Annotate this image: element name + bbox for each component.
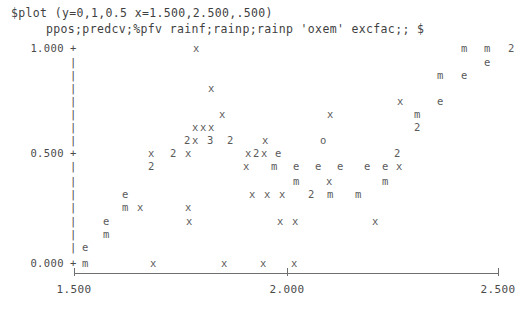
data-point-glyph: m bbox=[461, 42, 468, 54]
data-point-glyph: 2 bbox=[394, 147, 401, 159]
data-point-glyph: e bbox=[275, 147, 282, 159]
plot-command-line-1: $plot (y=0,1,0.5 x=1.500,2.500,.500) bbox=[11, 6, 273, 20]
y-axis-glyph: | bbox=[70, 134, 77, 146]
data-point-glyph: m bbox=[414, 108, 421, 120]
data-point-glyph: e bbox=[82, 241, 89, 253]
data-point-glyph: x bbox=[192, 121, 199, 133]
data-point-glyph: e bbox=[484, 56, 491, 68]
data-point-glyph: m bbox=[327, 188, 334, 200]
x-axis-tick-mark bbox=[287, 268, 288, 276]
data-point-glyph: x bbox=[260, 257, 267, 269]
data-point-glyph: 2 bbox=[308, 188, 315, 200]
scatter-plot-canvas: 1.0000.5000.000 +|||||||+|||||||+ xmm2em… bbox=[0, 38, 531, 288]
y-axis-glyph: | bbox=[70, 121, 77, 133]
data-point-glyph: x bbox=[150, 257, 157, 269]
data-point-glyph: x bbox=[243, 160, 250, 172]
data-point-glyph: x bbox=[396, 160, 403, 172]
data-point-glyph: x bbox=[137, 201, 144, 213]
data-point-glyph: 2 bbox=[227, 134, 234, 146]
data-point-glyph: x bbox=[221, 257, 228, 269]
x-axis-line bbox=[74, 273, 498, 274]
y-axis-glyph: | bbox=[70, 201, 77, 213]
data-point-glyph: e bbox=[337, 160, 344, 172]
data-point-glyph: x bbox=[264, 188, 271, 200]
data-point-glyph: x bbox=[397, 95, 404, 107]
data-point-glyph: m bbox=[293, 175, 300, 187]
data-point-glyph: x bbox=[185, 201, 192, 213]
ascii-plot-screen: $plot (y=0,1,0.5 x=1.500,2.500,.500) ppo… bbox=[0, 0, 531, 309]
data-point-glyph: x bbox=[186, 215, 193, 227]
data-point-glyph: m bbox=[382, 175, 389, 187]
data-point-glyph: x bbox=[277, 215, 284, 227]
data-point-glyph: 2 bbox=[148, 160, 155, 172]
y-axis-glyph: | bbox=[70, 215, 77, 227]
x-axis-tick-label: 2.000 bbox=[269, 283, 304, 296]
data-point-glyph: x bbox=[208, 82, 215, 94]
y-axis-glyph: | bbox=[70, 160, 77, 172]
data-point-glyph: m bbox=[355, 188, 362, 200]
x-axis-tick-mark bbox=[74, 268, 75, 276]
y-axis-tick-label: 1.000 bbox=[20, 42, 64, 54]
y-axis-glyph: | bbox=[70, 56, 77, 68]
data-point-glyph: m bbox=[82, 257, 89, 269]
y-axis-glyph: | bbox=[70, 188, 77, 200]
y-axis-glyph: | bbox=[70, 95, 77, 107]
plot-command-line-2: ppos;predcv;%pfv rainf;rainp;rainp 'oxem… bbox=[46, 22, 424, 36]
data-point-glyph: e bbox=[103, 215, 110, 227]
data-point-glyph: x bbox=[185, 147, 192, 159]
data-point-glyph: e bbox=[364, 160, 371, 172]
data-point-glyph: o bbox=[320, 134, 327, 146]
data-point-glyph: 2 bbox=[253, 147, 260, 159]
data-point-glyph: e bbox=[315, 160, 322, 172]
data-point-glyph: x bbox=[327, 108, 334, 120]
data-point-glyph: e bbox=[293, 160, 300, 172]
data-point-glyph: x bbox=[261, 147, 268, 159]
data-point-glyph: x bbox=[326, 175, 333, 187]
data-point-glyph: m bbox=[103, 228, 110, 240]
y-axis-glyph: + bbox=[70, 147, 77, 159]
data-point-glyph: e bbox=[437, 95, 444, 107]
y-axis-glyph: | bbox=[70, 228, 77, 240]
data-point-glyph: x bbox=[291, 257, 298, 269]
y-axis-glyph: | bbox=[70, 82, 77, 94]
data-point-glyph: x bbox=[249, 188, 256, 200]
data-point-glyph: x bbox=[148, 147, 155, 159]
x-axis-tick-label: 1.500 bbox=[56, 283, 91, 296]
y-axis-glyph: | bbox=[70, 108, 77, 120]
data-point-glyph: x bbox=[279, 188, 286, 200]
data-point-glyph: x bbox=[208, 121, 215, 133]
x-axis-tick-label: 2.500 bbox=[480, 283, 515, 296]
data-point-glyph: 2 bbox=[184, 134, 191, 146]
data-point-glyph: m bbox=[437, 69, 444, 81]
y-axis-tick-label: 0.500 bbox=[20, 147, 64, 159]
data-point-glyph: x bbox=[372, 215, 379, 227]
data-point-glyph: e bbox=[461, 69, 468, 81]
data-point-glyph: x bbox=[200, 121, 207, 133]
data-point-glyph: m bbox=[271, 160, 278, 172]
data-point-glyph: 2 bbox=[170, 147, 177, 159]
y-axis-glyph: | bbox=[70, 69, 77, 81]
data-point-glyph: x bbox=[262, 134, 269, 146]
data-point-glyph: 2 bbox=[414, 121, 421, 133]
data-point-glyph: x bbox=[192, 134, 199, 146]
data-point-glyph: x bbox=[292, 215, 299, 227]
data-point-glyph: e bbox=[382, 160, 389, 172]
y-axis-glyph: + bbox=[70, 42, 77, 54]
data-point-glyph: m bbox=[122, 201, 129, 213]
y-axis-tick-label: 0.000 bbox=[20, 257, 64, 269]
data-point-glyph: 3 bbox=[207, 134, 214, 146]
data-point-glyph: x bbox=[245, 147, 252, 159]
data-point-glyph: x bbox=[193, 42, 200, 54]
data-point-glyph: 2 bbox=[508, 42, 515, 54]
data-point-glyph: m bbox=[484, 42, 491, 54]
x-axis-tick-mark bbox=[498, 268, 499, 276]
y-axis-glyph: | bbox=[70, 175, 77, 187]
data-point-glyph: e bbox=[122, 188, 129, 200]
y-axis-glyph: | bbox=[70, 241, 77, 253]
data-point-glyph: x bbox=[219, 108, 226, 120]
